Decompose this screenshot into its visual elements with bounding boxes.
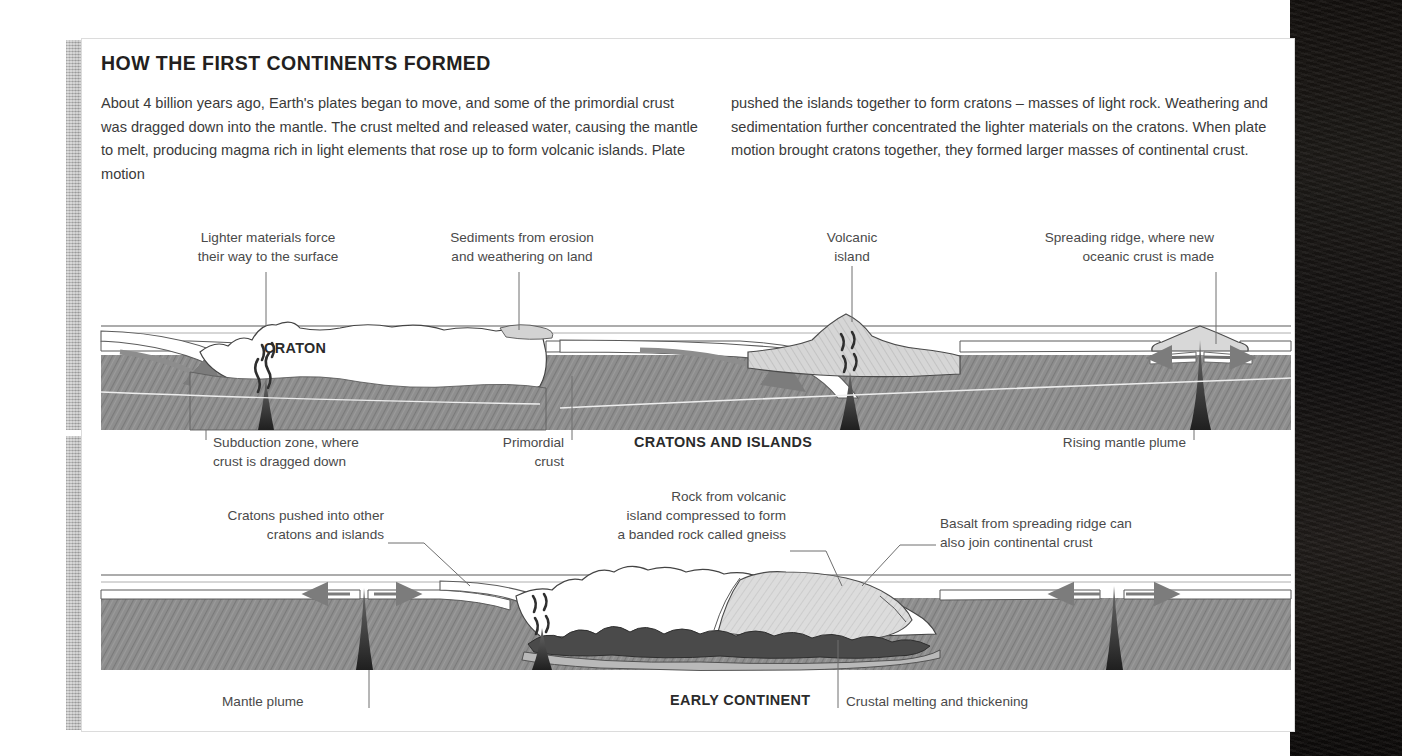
label-spreading-ridge: Spreading ridge, where new oceanic crust… xyxy=(966,228,1214,266)
label-crustal-melting: Crustal melting and thickening xyxy=(846,692,1116,711)
label-mantle-plume: Mantle plume xyxy=(222,692,382,711)
diagram-canvas xyxy=(0,0,1402,756)
bottom-cross-section xyxy=(101,566,1291,670)
label-rising-mantle-plume: Rising mantle plume xyxy=(1000,433,1186,452)
page: HOW THE FIRST CONTINENTS FORMED About 4 … xyxy=(0,0,1402,756)
label-sediments: Sediments from erosion and weathering on… xyxy=(424,228,620,266)
top-cross-section xyxy=(101,314,1291,430)
caption-cratons-and-islands: CRATONS AND ISLANDS xyxy=(634,434,812,450)
label-volcanic-island: Volcanic island xyxy=(806,228,898,266)
label-subduction-zone: Subduction zone, where crust is dragged … xyxy=(213,433,443,471)
label-gneiss: Rock from volcanic island compressed to … xyxy=(586,487,786,544)
label-cratons-pushed: Cratons pushed into other cratons and is… xyxy=(176,506,384,544)
label-basalt: Basalt from spreading ridge can also joi… xyxy=(940,514,1240,552)
label-craton: CRATON xyxy=(264,340,326,356)
label-lighter-materials: Lighter materials force their way to the… xyxy=(170,228,366,266)
caption-early-continent: EARLY CONTINENT xyxy=(670,692,810,708)
label-primordial-crust: Primordial crust xyxy=(440,433,564,471)
